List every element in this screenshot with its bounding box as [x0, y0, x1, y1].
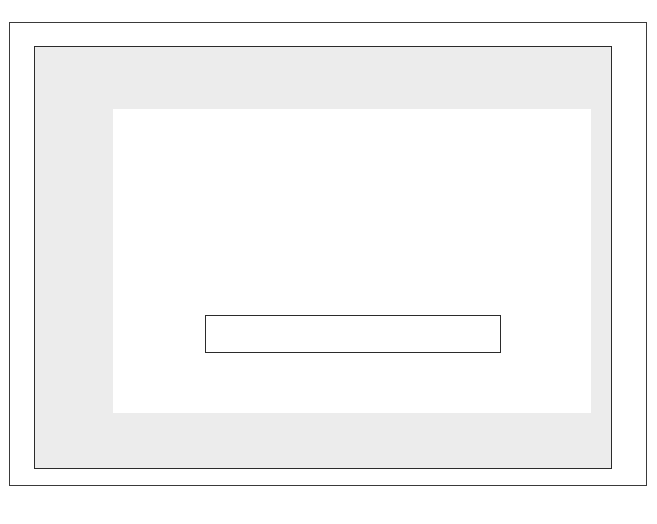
plot-area: [113, 109, 591, 413]
chart-svg: [113, 109, 591, 413]
chart-frame: [34, 46, 612, 469]
chart-legend: [205, 315, 501, 353]
y-axis-tick-labels: [35, 109, 107, 413]
x-axis-tick-labels: [113, 413, 591, 473]
figure-container: [9, 22, 647, 486]
